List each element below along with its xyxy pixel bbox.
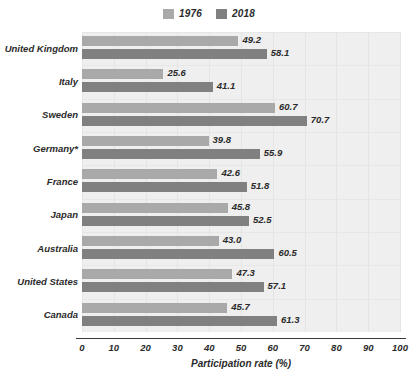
bar-2018 <box>82 182 247 192</box>
category-label: United Kingdom <box>0 43 78 54</box>
bar-value-label: 51.8 <box>251 181 270 191</box>
bar-group: 49.258.1 <box>82 32 400 65</box>
bar-value-label: 55.9 <box>264 148 283 158</box>
bar-group: 39.855.9 <box>82 132 400 165</box>
bar-value-label: 25.6 <box>167 68 186 78</box>
x-tick-label: 80 <box>331 342 342 353</box>
x-tick-label: 100 <box>392 342 408 353</box>
bar-group: 43.060.5 <box>82 232 400 265</box>
gridline-horizontal <box>82 165 400 166</box>
bar-value-label: 39.8 <box>213 135 232 145</box>
bar-group: 60.770.7 <box>82 99 400 132</box>
gridline-horizontal <box>82 199 400 200</box>
legend-label-2018: 2018 <box>232 9 255 19</box>
category-label: Germany* <box>0 143 78 154</box>
bar-1976 <box>82 103 275 113</box>
bar-group: 45.761.3 <box>82 299 400 332</box>
x-tick-label: 90 <box>363 342 374 353</box>
bar-value-label: 70.7 <box>311 115 330 125</box>
bar-1976 <box>82 303 227 313</box>
gridline-horizontal <box>82 99 400 100</box>
x-axis-line <box>76 338 406 339</box>
category-label: France <box>0 176 78 187</box>
bar-2018 <box>82 216 249 226</box>
bar-value-label: 41.1 <box>217 81 236 91</box>
legend-label-1976: 1976 <box>179 9 202 19</box>
bar-1976 <box>82 136 209 146</box>
gridline-vertical <box>400 32 401 332</box>
x-axis-title: Participation rate (%) <box>82 358 400 369</box>
bar-2018 <box>82 149 260 159</box>
gridline-horizontal <box>82 232 400 233</box>
bar-2018 <box>82 249 274 259</box>
gridline-horizontal <box>82 265 400 266</box>
legend-item-1976: 1976 <box>163 9 202 19</box>
gridline-horizontal <box>82 132 400 133</box>
participation-rate-bar-chart: 1976 2018 49.258.125.641.160.770.739.855… <box>0 0 418 378</box>
chart-legend: 1976 2018 <box>0 9 418 19</box>
bar-value-label: 60.5 <box>278 248 297 258</box>
plot-area: 49.258.125.641.160.770.739.855.942.651.8… <box>82 32 400 332</box>
x-tick-label: 0 <box>79 342 84 353</box>
x-tick-label: 10 <box>109 342 120 353</box>
bar-group: 45.852.5 <box>82 199 400 232</box>
bar-value-label: 52.5 <box>253 215 272 225</box>
bar-2018 <box>82 82 213 92</box>
gridline-horizontal <box>82 32 400 33</box>
bar-value-label: 47.3 <box>236 268 255 278</box>
bar-value-label: 45.7 <box>231 302 250 312</box>
legend-item-2018: 2018 <box>216 9 255 19</box>
x-tick-label: 70 <box>299 342 310 353</box>
category-label: Italy <box>0 76 78 87</box>
category-label: Canada <box>0 309 78 320</box>
x-tick-label: 30 <box>172 342 183 353</box>
category-label: Japan <box>0 209 78 220</box>
x-tick-label: 60 <box>268 342 279 353</box>
gridline-horizontal <box>82 299 400 300</box>
bar-2018 <box>82 49 267 59</box>
bar-group: 42.651.8 <box>82 165 400 198</box>
category-label: United States <box>0 276 78 287</box>
x-tick-label: 50 <box>236 342 247 353</box>
bar-value-label: 42.6 <box>221 168 240 178</box>
legend-swatch-2018 <box>216 9 227 19</box>
bar-1976 <box>82 269 232 279</box>
x-tick-label: 40 <box>204 342 215 353</box>
bar-value-label: 45.8 <box>232 202 251 212</box>
bar-value-label: 61.3 <box>281 315 300 325</box>
bar-2018 <box>82 116 307 126</box>
x-tick-label: 20 <box>140 342 151 353</box>
bar-group: 47.357.1 <box>82 265 400 298</box>
bar-1976 <box>82 236 219 246</box>
category-label: Sweden <box>0 109 78 120</box>
bar-value-label: 49.2 <box>242 35 261 45</box>
bar-2018 <box>82 316 277 326</box>
category-label: Australia <box>0 243 78 254</box>
bar-1976 <box>82 169 217 179</box>
legend-swatch-1976 <box>163 9 174 19</box>
bar-1976 <box>82 203 228 213</box>
bar-value-label: 57.1 <box>268 281 287 291</box>
gridline-horizontal <box>82 65 400 66</box>
bar-1976 <box>82 36 238 46</box>
bar-group: 25.641.1 <box>82 65 400 98</box>
bar-2018 <box>82 282 264 292</box>
bar-value-label: 43.0 <box>223 235 242 245</box>
bar-value-label: 58.1 <box>271 48 290 58</box>
bar-1976 <box>82 69 163 79</box>
bar-value-label: 60.7 <box>279 102 298 112</box>
